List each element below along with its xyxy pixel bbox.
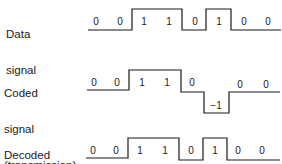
svg-text:0: 0 bbox=[113, 145, 119, 156]
svg-text:1: 1 bbox=[166, 16, 172, 27]
svg-text:0: 0 bbox=[117, 16, 123, 27]
svg-text:0: 0 bbox=[192, 16, 198, 27]
svg-text:1: 1 bbox=[164, 77, 170, 88]
svg-text:0: 0 bbox=[93, 16, 99, 27]
svg-text:0: 0 bbox=[189, 77, 195, 88]
svg-text:0: 0 bbox=[241, 16, 247, 27]
svg-text:0: 0 bbox=[91, 77, 97, 88]
svg-text:0: 0 bbox=[235, 145, 241, 156]
svg-text:0: 0 bbox=[237, 79, 243, 90]
svg-text:1: 1 bbox=[141, 16, 147, 27]
svg-text:1: 1 bbox=[216, 16, 222, 27]
svg-text:1: 1 bbox=[139, 77, 145, 88]
svg-text:0: 0 bbox=[114, 77, 120, 88]
svg-text:1: 1 bbox=[162, 145, 168, 156]
svg-text:0: 0 bbox=[188, 145, 194, 156]
svg-text:0: 0 bbox=[265, 16, 271, 27]
svg-text:1: 1 bbox=[137, 145, 143, 156]
svg-text:0: 0 bbox=[90, 145, 96, 156]
waveform-diagram: 0 0 1 1 0 1 0 0 0 0 1 1 0 −1 0 0 0 0 1 1… bbox=[0, 0, 282, 164]
coded-signal-bits: 0 0 1 1 0 −1 0 0 bbox=[91, 77, 269, 111]
svg-text:0: 0 bbox=[259, 145, 265, 156]
svg-text:1: 1 bbox=[212, 145, 218, 156]
svg-text:0: 0 bbox=[263, 79, 269, 90]
svg-text:−1: −1 bbox=[210, 100, 222, 111]
decoded-signal-bits: 0 0 1 1 0 1 0 0 bbox=[90, 145, 265, 156]
